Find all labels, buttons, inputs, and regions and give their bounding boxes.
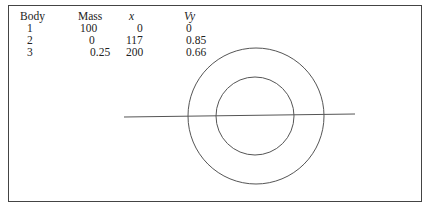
orbit-diagram <box>0 0 432 208</box>
axis-line <box>124 114 355 117</box>
